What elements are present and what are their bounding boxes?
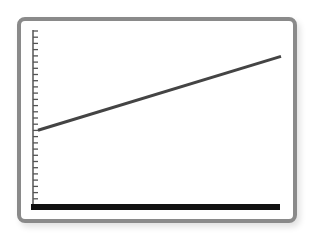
chart-stage: [0, 0, 318, 234]
series-line: [38, 56, 281, 130]
line-chart: [0, 0, 318, 234]
data-series: [38, 56, 281, 130]
x-axis: [31, 204, 280, 210]
